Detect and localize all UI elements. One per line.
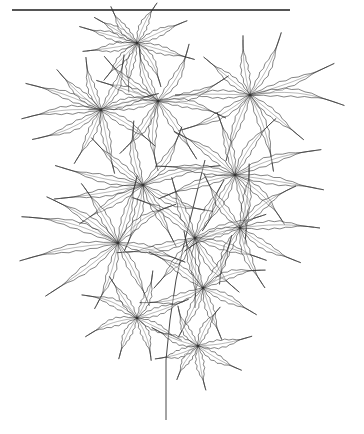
- leaf-clusters: [20, 3, 345, 391]
- leaf-cluster-upper-left: [22, 55, 159, 174]
- leaf-lobe: [198, 336, 252, 349]
- leaf-lobe: [240, 221, 320, 230]
- maple-branch-drawing: [0, 0, 364, 434]
- leaf-lobe: [158, 101, 197, 159]
- leaf-cluster-bottom: [152, 306, 253, 391]
- leaf-cluster-upper-right: [175, 32, 344, 171]
- leaf-cluster-lower-left-2: [82, 271, 189, 361]
